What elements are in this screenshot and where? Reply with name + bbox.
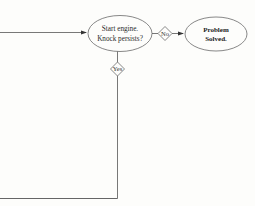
flowchart-diagram: Start engine. Knock persists? No Problem… xyxy=(0,0,255,206)
start-engine-node: Start engine. Knock persists? xyxy=(88,16,152,52)
start-engine-label-line2: Knock persists? xyxy=(97,35,143,43)
no-decision-diamond: No xyxy=(158,27,172,41)
problem-solved-label-line2: Solved. xyxy=(205,35,227,43)
yes-branch-connector xyxy=(0,52,118,199)
no-label: No xyxy=(161,30,169,37)
yes-label: Yes xyxy=(113,65,123,72)
problem-solved-node: Problem Solved. xyxy=(185,17,247,51)
yes-decision-diamond: Yes xyxy=(111,62,125,76)
problem-solved-label-line1: Problem xyxy=(203,26,229,34)
start-engine-label-line1: Start engine. xyxy=(102,25,139,33)
